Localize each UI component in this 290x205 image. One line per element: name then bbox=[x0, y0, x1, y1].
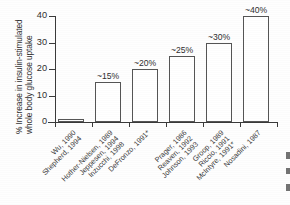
x-axis-category-labels: Wu, 1990 Shepherd, 1994 Hother-Nielsen, … bbox=[0, 122, 290, 205]
page-edge-fragment-2 bbox=[286, 184, 290, 191]
y-tick-label-10: 10 bbox=[25, 91, 47, 100]
bar-series: ~15% ~20% ~25% ~30% ~40% bbox=[55, 16, 278, 122]
bar-4 bbox=[206, 43, 232, 123]
bar-label-3: ~25% bbox=[162, 46, 202, 55]
bar-1 bbox=[95, 82, 121, 122]
bar-chart-figure: % Increase in insulin-stimulated whole b… bbox=[0, 0, 290, 205]
y-tick-label-20: 20 bbox=[25, 64, 47, 73]
bar-label-2: ~20% bbox=[125, 59, 165, 68]
bar-label-5: ~40% bbox=[236, 6, 276, 15]
y-tick-label-40: 40 bbox=[25, 11, 47, 20]
page-edge-fragment-1 bbox=[286, 168, 290, 174]
page-edge-fragment-0 bbox=[286, 152, 290, 159]
bar-label-1: ~15% bbox=[88, 72, 128, 81]
y-tick-label-30: 30 bbox=[25, 38, 47, 47]
bar-label-4: ~30% bbox=[199, 33, 239, 42]
bar-2 bbox=[132, 69, 158, 122]
bar-3 bbox=[169, 56, 195, 122]
bar-5 bbox=[243, 16, 269, 122]
